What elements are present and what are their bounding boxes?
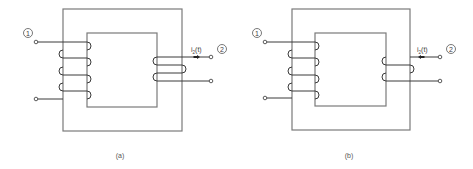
caption-b: (b) — [345, 152, 354, 160]
port-1-label-b: 1 — [255, 30, 259, 37]
terminal-1-bottom-a — [34, 97, 38, 101]
terminal-2-top-b — [438, 55, 442, 59]
current-label-b: i2(t) — [417, 46, 428, 55]
core-window-a — [87, 33, 157, 107]
port-1-label-a: 1 — [26, 30, 30, 37]
port-2-label-b: 2 — [449, 46, 453, 53]
current-arrow-a — [197, 55, 200, 59]
current-arrow-b — [418, 55, 421, 59]
terminal-1-top-a — [34, 40, 38, 44]
terminal-2-bottom-b — [438, 79, 442, 83]
caption-a: (a) — [116, 152, 125, 160]
figure-b: 1 2 i2(t) (b) — [253, 9, 456, 160]
current-label-a: i2(t) — [191, 46, 202, 55]
port-2-label-a: 2 — [220, 46, 224, 53]
terminal-2-bottom-a — [209, 79, 213, 83]
terminal-1-top-b — [263, 40, 267, 44]
figure-a: 1 2 i2(t) (a) — [24, 9, 227, 160]
core-outer-a — [63, 9, 182, 131]
terminal-1-bottom-b — [263, 96, 267, 100]
current-arrow-tail-b — [421, 56, 425, 58]
core-window-b — [315, 33, 386, 106]
transformer-diagrams: 1 2 i2(t) (a) — [0, 0, 473, 169]
terminal-2-top-a — [209, 55, 213, 59]
current-arrow-tail-a — [194, 56, 198, 58]
core-outer-b — [292, 9, 410, 130]
primary-winding-a — [37, 42, 91, 99]
